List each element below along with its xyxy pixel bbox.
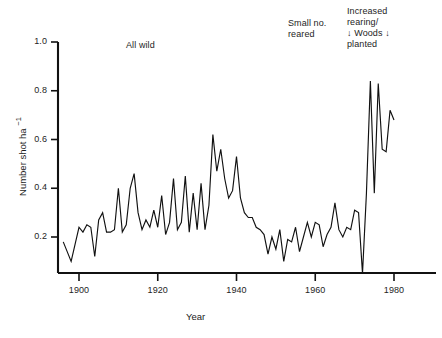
x-tick-label: 1900 [59,285,99,295]
annotation-increased-rearing: Increased rearing/ ↓ Woods ↓ planted [347,6,390,50]
x-axis-title: Year [186,311,205,322]
x-tick-label: 1960 [295,285,335,295]
annotation-small-no-reared: Small no. reared [288,18,326,40]
y-axis-title-exponent: −1 [14,117,23,126]
y-axis-title: Number shot ha −1 [14,87,27,227]
x-tick-label: 1920 [138,285,178,295]
y-tick-label: 0.2 [21,231,47,241]
x-tick-label: 1940 [217,285,257,295]
y-tick-label: 1.0 [21,36,47,46]
chart-figure: 0.20.40.60.81.0 19001920194019601980 Num… [0,0,442,338]
annotation-all-wild: All wild [126,40,155,51]
x-tick-label: 1980 [374,285,414,295]
chart-axes [51,42,436,281]
data-series-group [63,81,394,274]
x-axis-ticks [79,273,394,281]
series-line-number-shot [63,81,394,274]
